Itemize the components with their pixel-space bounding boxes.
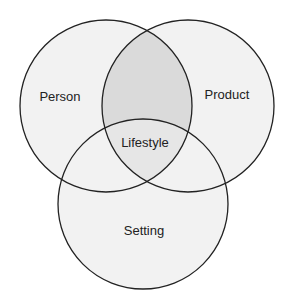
product-label: Product	[205, 87, 250, 102]
lifestyle-label: Lifestyle	[121, 135, 169, 150]
setting-label: Setting	[124, 223, 164, 238]
venn-diagram: Person Product Setting Lifestyle	[0, 0, 285, 302]
person-label: Person	[39, 89, 80, 104]
